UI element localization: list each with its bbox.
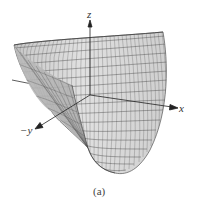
neg-y-axis-label: −y (20, 124, 32, 136)
x-axis-label: x (178, 102, 184, 114)
z-axis-arrow-icon (88, 20, 92, 27)
x-axis-arrow-icon (170, 105, 179, 111)
neg-y-axis-arrow-icon (35, 123, 43, 130)
figure-caption: (a) (93, 185, 106, 198)
surface-plot-figure: z x −y (a) (0, 0, 203, 200)
z-axis-label: z (86, 8, 92, 20)
